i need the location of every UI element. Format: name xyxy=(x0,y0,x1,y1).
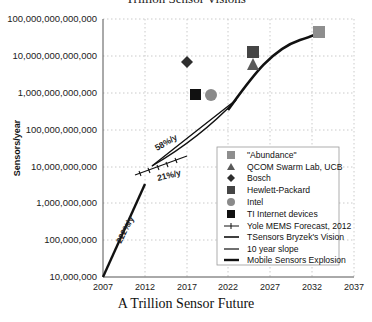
legend-item-label: Hewlett-Packard xyxy=(247,185,310,195)
marker-intel xyxy=(205,89,217,101)
legend-square-icon xyxy=(227,210,235,218)
x-tick: 2022 xyxy=(218,282,238,292)
legend-item-label: Intel xyxy=(247,197,263,207)
legend-abundance-icon xyxy=(227,151,235,159)
marker-qcom xyxy=(247,58,259,70)
legend-item-label: QCOM Swarm Lab, UCB xyxy=(247,162,343,172)
legend-item-label: Yole MEMS Forecast, 2012 xyxy=(247,221,352,231)
annotation-58: 58%/y xyxy=(153,132,179,153)
x-tick: 2027 xyxy=(260,282,280,292)
marker-abundance xyxy=(313,26,325,38)
marker-hp xyxy=(247,46,259,58)
y-tick: 100,000,000,000 xyxy=(26,124,97,135)
x-tick: 2007 xyxy=(93,282,113,292)
y-tick: 1,000,000,000 xyxy=(36,197,97,208)
legend: "Abundance" QCOM Swarm Lab, UCB Bosch He… xyxy=(217,147,352,265)
x-tick: 2032 xyxy=(302,282,322,292)
legend-item-label: Mobile Sensors Explosion xyxy=(247,255,346,265)
y-tick: 100,000,000 xyxy=(44,234,97,245)
legend-item-label: "Abundance" xyxy=(247,150,297,160)
marker-ti xyxy=(190,89,201,100)
series-mobile-explosion xyxy=(228,33,319,110)
chart-caption: A Trillion Sensor Future xyxy=(0,296,372,312)
legend-item-label: TI Internet devices xyxy=(247,209,318,219)
annotation-222: 222%/y xyxy=(114,214,136,244)
x-tick-labels: 2007 2012 2017 2022 2027 2032 2037 xyxy=(93,282,364,292)
marker-bosch xyxy=(181,56,193,68)
y-tick: 10,000,000,000 xyxy=(31,161,97,172)
chart-figure: Trillion Sensor Visions 100,000,000,000,… xyxy=(0,0,372,322)
annotation-21: 21%/y xyxy=(156,167,182,183)
x-tick: 2017 xyxy=(177,282,197,292)
y-tick: 10,000,000,000,000 xyxy=(12,50,97,61)
legend-item-label: 10 year slope xyxy=(247,244,299,254)
x-tick: 2037 xyxy=(344,282,364,292)
y-tick: 100,000,000,000,000 xyxy=(7,13,97,24)
legend-item-label: TSensors Bryzek's Vision xyxy=(247,232,344,242)
y-axis-label: Sensors/year xyxy=(12,119,22,176)
x-tick: 2012 xyxy=(135,282,155,292)
y-tick: 1,000,000,000,000 xyxy=(18,87,97,98)
y-tick: 10,000,000 xyxy=(49,271,97,282)
legend-item-label: Bosch xyxy=(247,173,271,183)
chart-svg: 100,000,000,000,000 10,000,000,000,000 1… xyxy=(0,0,372,322)
legend-circle-icon xyxy=(227,198,235,206)
legend-square-icon xyxy=(227,186,235,194)
